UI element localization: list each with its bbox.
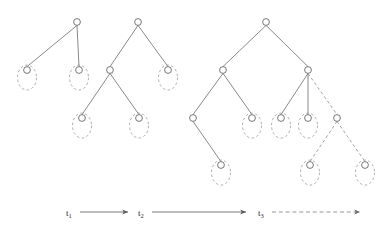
tree-node-internal (190, 115, 197, 122)
tree-node-internal (305, 67, 312, 74)
tree-node-internal (107, 67, 114, 74)
tree-node-leaf (165, 67, 172, 74)
tree-node-internal (220, 67, 227, 74)
tree-node-leaf (362, 162, 369, 169)
tree-node-leaf (218, 162, 225, 169)
tree-node-leaf (79, 115, 86, 122)
tree-node-leaf (136, 115, 143, 122)
tree-node-leaf (249, 115, 256, 122)
derivation-trees-figure: t1t2t3 (0, 0, 386, 236)
tree-node-leaf (76, 67, 83, 74)
tree-node-internal (334, 115, 341, 122)
tree-node-leaf (305, 115, 312, 122)
tree-node-internal (74, 19, 81, 26)
tree-node-leaf (278, 115, 285, 122)
tree-node-leaf (307, 162, 314, 169)
tree-node-internal (135, 19, 142, 26)
tree-node-internal (263, 19, 270, 26)
tree-node-leaf (24, 67, 31, 74)
